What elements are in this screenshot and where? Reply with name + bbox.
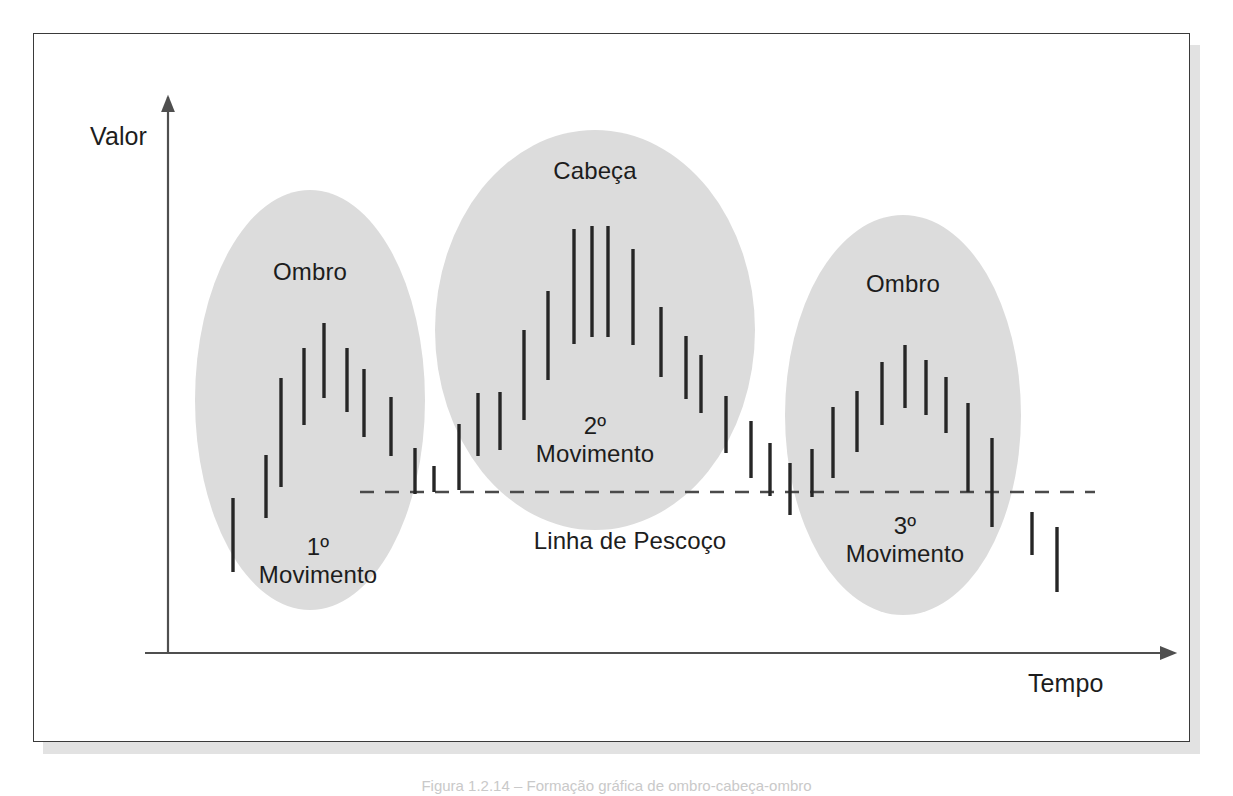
movement-2-word: Movimento [536, 440, 654, 468]
zone-head [435, 130, 755, 530]
movement-label-2: 2º Movimento [536, 412, 654, 469]
movement-label-1: 1º Movimento [259, 533, 377, 590]
zone-label-head: Cabeça [553, 157, 636, 185]
movement-label-3: 3º Movimento [846, 512, 964, 569]
zone-label-left-shoulder: Ombro [273, 258, 347, 286]
figure-stage: Valor Tempo Ombro Cabeça Ombro 1º Movime… [0, 0, 1233, 796]
figure-caption: Figura 1.2.14 – Formação gráfica de ombr… [421, 777, 811, 796]
movement-2-number: 2º [536, 412, 654, 440]
y-axis-label: Valor [90, 122, 147, 152]
x-axis-label: Tempo [1028, 669, 1104, 699]
zone-label-right-shoulder: Ombro [866, 270, 940, 298]
movement-1-word: Movimento [259, 561, 377, 589]
movement-3-word: Movimento [846, 540, 964, 568]
neckline-label: Linha de Pescoço [534, 527, 726, 555]
movement-1-number: 1º [259, 533, 377, 561]
movement-3-number: 3º [846, 512, 964, 540]
